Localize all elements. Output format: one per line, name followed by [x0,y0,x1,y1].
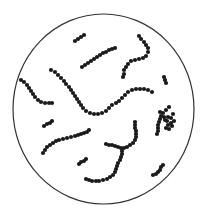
coccus-cell [164,108,168,112]
chain-center-hook [104,120,138,150]
chain-right-pair [162,75,168,85]
chain-bottom-right-short [151,163,165,177]
coccus-cell [84,109,88,113]
coccus-cell [87,128,91,132]
coccus-cell [170,124,174,128]
coccus-cell [169,116,173,120]
coccus-cell [39,100,43,104]
coccus-cell [49,68,53,72]
coccus-cell [167,105,171,109]
chain-right-cluster [155,105,176,136]
coccus-cell [133,58,137,62]
coccus-cell [33,95,37,99]
coccus-cell [126,90,130,94]
coccus-cell [129,59,133,63]
coccus-cell [158,110,162,114]
coccus-cell [50,119,54,123]
microscope-field-svg [0,0,202,211]
coccus-cell [81,106,85,110]
coccus-cell [101,178,105,182]
coccus-cell [113,46,117,50]
coccus-cell [90,179,94,183]
coccus-cell [142,87,146,91]
chain-left-curve [19,78,54,105]
chain-left-middle-diagonal [41,128,91,155]
coccus-cell [100,111,104,115]
chain-top-short [73,33,86,43]
coccus-cell [64,82,68,86]
coccus-cell [117,99,121,103]
coccus-cell [146,88,150,92]
coccus-cell [96,112,100,116]
coccus-cell [120,149,124,153]
coccus-cell [107,106,111,110]
coccus-cell [139,37,143,41]
coccus-cell [121,75,125,79]
coccus-cell [57,138,61,142]
chain-top-diagonal [80,46,117,69]
coccus-cell [88,111,92,115]
coccus-cell [104,142,108,146]
coccus-cell [138,87,142,91]
coccus-cell [65,136,69,140]
chain-left-short [42,119,54,128]
coccus-cell [155,132,159,136]
coccus-cell [97,179,101,183]
coccus-cell [123,93,127,97]
coccus-cell [50,101,54,105]
coccus-cell [43,101,47,105]
coccus-cell [120,96,124,100]
coccus-cell [61,137,65,141]
coccus-cell [59,76,63,80]
coccus-cell [53,70,57,74]
coccus-cell [165,119,169,123]
chain-central-long [49,68,154,116]
chain-top-right-hook [121,34,150,79]
chain-bottom-left-short [77,157,88,166]
coccus-cell [122,68,126,72]
coccus-cell [110,103,114,107]
coccus-cell [92,112,96,116]
chain-bottom-j [84,149,124,183]
coccus-cell [164,81,168,85]
microscope-field-diagram [0,0,202,211]
coccus-cell [104,109,108,113]
coccus-cell [171,112,175,116]
coccus-cell [22,80,26,84]
coccus-cell [84,157,88,161]
coccus-cell [69,135,73,139]
coccus-cell [161,163,165,167]
bacteria-chains [19,33,176,183]
coccus-cell [150,90,154,94]
coccus-cell [141,56,145,60]
coccus-cell [146,46,150,50]
coccus-cell [82,33,86,37]
coccus-cell [167,127,171,131]
coccus-cell [137,57,141,61]
coccus-cell [130,88,134,92]
coccus-cell [56,73,60,77]
coccus-cell [146,50,150,54]
coccus-cell [134,87,138,91]
